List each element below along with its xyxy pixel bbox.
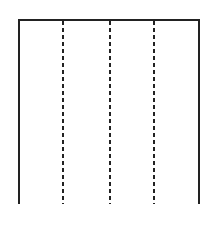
dashed-divider-1 xyxy=(62,21,64,204)
dashed-divider-2 xyxy=(109,21,111,204)
dashed-divider-3 xyxy=(153,21,155,204)
